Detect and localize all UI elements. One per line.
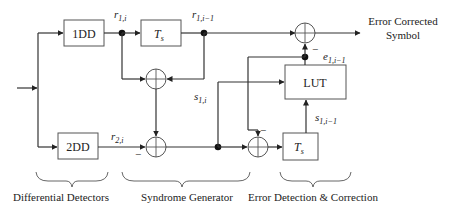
minus-sign-feedback: − xyxy=(260,124,266,136)
1dd-label: 1DD xyxy=(72,27,96,41)
output-label-line1: Error Corrected xyxy=(368,15,438,27)
output-adder xyxy=(295,23,315,43)
minus-sign-e: − xyxy=(312,43,318,55)
group-label-differential-detectors: Differential Detectors xyxy=(13,191,109,203)
syndrome-adder-bottom xyxy=(146,137,166,157)
group-label-error-detection-correction: Error Detection & Correction xyxy=(248,191,378,203)
label-r1im1: r1,i−1 xyxy=(192,8,214,23)
1dd-block: 1DD xyxy=(64,20,104,46)
group-label-syndrome-generator: Syndrome Generator xyxy=(141,191,233,203)
correction-adder xyxy=(248,137,268,157)
label-s1i: s1,i xyxy=(194,90,207,105)
lut-block: LUT xyxy=(285,65,346,99)
label-e1im1: e1,i−1 xyxy=(323,50,346,65)
2dd-label: 2DD xyxy=(66,140,90,154)
brace-differential-detectors xyxy=(36,172,108,187)
brace-error-detection-correction xyxy=(280,172,351,187)
label-s1im1: s1,i−1 xyxy=(315,111,337,126)
2dd-block: 2DD xyxy=(58,133,98,159)
ts-delay-top: Ts xyxy=(141,20,181,46)
label-r2i: r2,i xyxy=(111,130,124,145)
input-signal xyxy=(17,33,63,147)
lut-label: LUT xyxy=(303,76,327,90)
minus-sign-r2i: − xyxy=(135,148,141,160)
label-r1i: r1,i xyxy=(114,8,127,23)
brace-syndrome-generator xyxy=(122,172,250,187)
syndrome-adder-top xyxy=(146,69,166,89)
output-label-line2: Symbol xyxy=(386,29,420,41)
ts-delay-bottom: Ts xyxy=(283,133,318,160)
block-diagram: 1DD r1,i Ts r1,i−1 Error Corrected Symbo… xyxy=(0,0,451,209)
